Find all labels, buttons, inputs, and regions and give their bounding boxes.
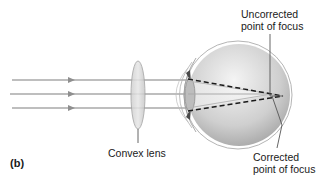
- corrected-focus-label: Corrected point of focus: [253, 151, 315, 175]
- arrow-icon: [68, 91, 75, 97]
- uncorrected-focus-label: Uncorrected point of focus: [241, 8, 303, 32]
- arrow-icon: [68, 105, 75, 111]
- convex-lens-label: Convex lens: [108, 147, 166, 159]
- incoming-rays: [10, 77, 188, 111]
- arrow-icon: [68, 77, 75, 83]
- panel-label: (b): [10, 157, 24, 169]
- convex-lens: [131, 61, 145, 143]
